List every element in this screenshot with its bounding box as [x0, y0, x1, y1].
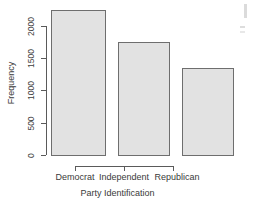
bar-democrat	[51, 10, 106, 156]
scan-artifact-mark-1	[240, 26, 245, 28]
x-tick-democrat	[75, 166, 76, 171]
y-tick-1000	[41, 90, 46, 91]
y-tick-label-0: 0	[27, 147, 36, 165]
x-tick-independent	[124, 166, 125, 171]
y-tick-label-500: 500	[27, 111, 36, 137]
y-axis-title: Frequency	[6, 48, 16, 118]
x-tick-label-republican: Republican	[141, 172, 213, 183]
scan-artifact	[244, 4, 247, 18]
y-tick-500	[41, 123, 46, 124]
scan-artifact-mark-2	[240, 31, 245, 33]
y-tick-label-2000: 2000	[27, 11, 36, 43]
y-tick-2000	[41, 26, 46, 27]
bar-chart: 0 500 1000 1500 2000 Frequency Democrat …	[0, 0, 256, 208]
y-tick-label-1500: 1500	[27, 43, 36, 75]
y-axis-line	[46, 26, 47, 155]
x-axis-title: Party Identification	[0, 188, 235, 198]
y-tick-0	[41, 155, 46, 156]
plot-area: 0 500 1000 1500 2000 Frequency Democrat …	[0, 0, 256, 208]
bar-republican	[182, 68, 234, 156]
y-tick-label-1000: 1000	[27, 75, 36, 107]
y-tick-1500	[41, 58, 46, 59]
bar-independent	[118, 42, 170, 156]
x-tick-republican	[173, 166, 174, 171]
